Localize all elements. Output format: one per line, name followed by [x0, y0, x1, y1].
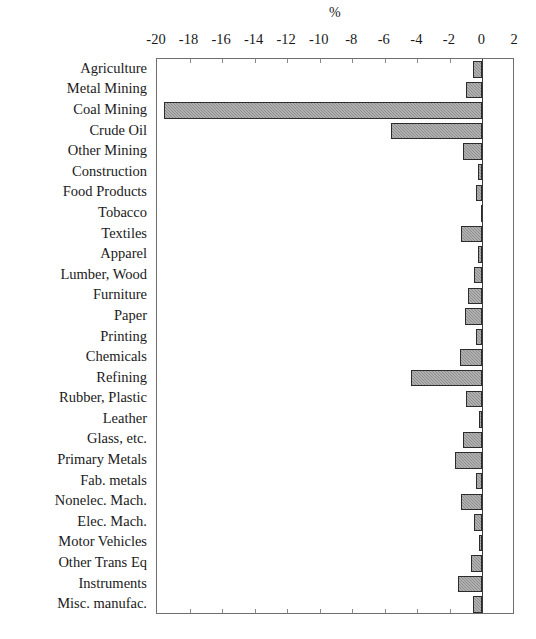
category-label: Other Trans Eq: [0, 554, 150, 571]
bar: [473, 596, 483, 612]
x-tick-mark-top: [352, 59, 353, 63]
category-label: Elec. Mach.: [0, 513, 150, 530]
zero-baseline: [482, 59, 483, 613]
x-tick-mark-bottom: [222, 609, 223, 613]
category-label: Glass, etc.: [0, 430, 150, 447]
category-label: Furniture: [0, 286, 150, 303]
category-label: Lumber, Wood: [0, 266, 150, 283]
category-label: Apparel: [0, 245, 150, 262]
category-label: Crude Oil: [0, 122, 150, 139]
bar: [461, 226, 482, 242]
category-label: Paper: [0, 307, 150, 324]
category-label: Fab. metals: [0, 472, 150, 489]
x-tick-mark-bottom: [417, 609, 418, 613]
plot-inner: [157, 59, 513, 613]
category-label: Metal Mining: [0, 80, 150, 97]
category-axis-labels: AgricultureMetal MiningCoal MiningCrude …: [0, 58, 150, 614]
x-tick-mark-top: [417, 59, 418, 63]
category-label: Agriculture: [0, 60, 150, 77]
bar: [474, 267, 482, 283]
bar: [465, 308, 483, 324]
category-label: Other Mining: [0, 142, 150, 159]
category-label: Printing: [0, 328, 150, 345]
bar: [474, 514, 482, 530]
bar: [466, 82, 482, 98]
x-tick-mark-bottom: [255, 609, 256, 613]
bar: [458, 576, 482, 592]
category-label: Construction: [0, 163, 150, 180]
x-tick-mark-top: [287, 59, 288, 63]
category-label: Leather: [0, 410, 150, 427]
x-tick-mark-top: [222, 59, 223, 63]
category-label: Misc. manufac.: [0, 595, 150, 612]
category-label: Chemicals: [0, 348, 150, 365]
category-label: Instruments: [0, 575, 150, 592]
x-tick-mark-bottom: [450, 609, 451, 613]
category-label: Food Products: [0, 183, 150, 200]
category-label: Textiles: [0, 225, 150, 242]
x-tick-mark-bottom: [190, 609, 191, 613]
x-tick-label-2: 2: [494, 31, 534, 48]
category-label: Tobacco: [0, 204, 150, 221]
bar: [164, 102, 483, 118]
bar: [476, 473, 483, 489]
bar: [476, 185, 483, 201]
category-label: Motor Vehicles: [0, 533, 150, 550]
bar: [471, 555, 482, 571]
bar: [411, 370, 483, 386]
bar: [460, 349, 483, 365]
bar: [473, 61, 483, 77]
category-label: Coal Mining: [0, 101, 150, 118]
bar: [461, 494, 482, 510]
category-label: Refining: [0, 369, 150, 386]
bar: [468, 288, 483, 304]
plot-area: [156, 58, 514, 614]
category-label: Nonelec. Mach.: [0, 492, 150, 509]
bar: [476, 329, 483, 345]
bar-chart: % -20-18-16-14-12-10-8-6-4-202 Agricultu…: [0, 0, 536, 639]
bar: [463, 432, 483, 448]
axis-title-percent: %: [156, 5, 514, 21]
x-tick-mark-top: [450, 59, 451, 63]
x-tick-mark-top: [320, 59, 321, 63]
x-tick-mark-top: [385, 59, 386, 63]
category-label: Rubber, Plastic: [0, 389, 150, 406]
category-label: Primary Metals: [0, 451, 150, 468]
x-tick-mark-bottom: [352, 609, 353, 613]
x-tick-mark-bottom: [320, 609, 321, 613]
bar: [391, 123, 482, 139]
bar: [455, 452, 483, 468]
x-tick-mark-top: [190, 59, 191, 63]
x-tick-mark-bottom: [385, 609, 386, 613]
x-tick-mark-top: [255, 59, 256, 63]
bar: [466, 391, 482, 407]
x-tick-mark-bottom: [287, 609, 288, 613]
bar: [463, 143, 483, 159]
